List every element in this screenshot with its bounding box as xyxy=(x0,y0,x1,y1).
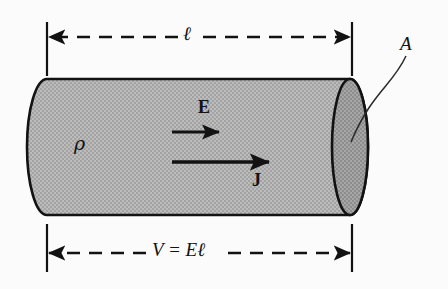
current-density-label: J xyxy=(252,171,261,189)
area-label: A xyxy=(400,34,412,53)
length-label: ℓ xyxy=(183,24,191,43)
dimension-length xyxy=(47,22,352,76)
voltage-relation-label: V = Eℓ xyxy=(152,240,205,259)
resistivity-label: ρ xyxy=(74,134,85,153)
diagram-canvas xyxy=(0,0,448,289)
physics-diagram-cylindrical-conductor: ℓ A ρ E J V = Eℓ xyxy=(0,0,448,289)
cylinder-end-face xyxy=(332,79,368,215)
electric-field-label: E xyxy=(198,98,210,116)
